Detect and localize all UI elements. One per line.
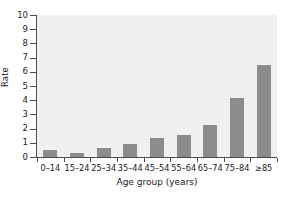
bar bbox=[177, 135, 191, 157]
y-axis-line bbox=[36, 15, 37, 158]
x-tick-mark bbox=[170, 158, 171, 162]
x-axis-line bbox=[36, 157, 277, 158]
x-tick-mark bbox=[224, 158, 225, 162]
x-tick-mark bbox=[117, 158, 118, 162]
bars-container bbox=[37, 15, 277, 157]
bar bbox=[230, 98, 244, 157]
bar bbox=[257, 65, 271, 157]
y-tick-label: 10 bbox=[12, 11, 28, 20]
y-tick-label: 6 bbox=[12, 67, 28, 76]
bar bbox=[97, 148, 111, 157]
y-tick-label: 4 bbox=[12, 96, 28, 105]
x-tick-label: 25–34 bbox=[90, 164, 117, 173]
x-tick-mark bbox=[64, 158, 65, 162]
bar bbox=[43, 150, 57, 157]
x-tick-label: 65–74 bbox=[197, 164, 224, 173]
bar bbox=[123, 144, 137, 157]
x-tick-mark bbox=[277, 158, 278, 162]
bar bbox=[150, 138, 164, 157]
x-tick-mark bbox=[197, 158, 198, 162]
x-tick-mark bbox=[37, 158, 38, 162]
bar-chart-figure: Rate 012345678910 0–1415–2425–3435–4445–… bbox=[0, 0, 290, 200]
x-tick-label: 55–64 bbox=[170, 164, 197, 173]
x-tick-label: 45–54 bbox=[144, 164, 171, 173]
y-tick-label: 8 bbox=[12, 39, 28, 48]
x-tick-label: 35–44 bbox=[117, 164, 144, 173]
y-tick-label: 3 bbox=[12, 110, 28, 119]
x-tick-label: 15–24 bbox=[64, 164, 91, 173]
x-tick-label: 75–84 bbox=[224, 164, 251, 173]
x-tick-label: 0–14 bbox=[37, 164, 64, 173]
x-axis-title: Age group (years) bbox=[37, 177, 277, 187]
y-tick-label: 9 bbox=[12, 25, 28, 34]
x-tick-mark bbox=[250, 158, 251, 162]
x-tick-mark bbox=[90, 158, 91, 162]
y-tick-label: 2 bbox=[12, 124, 28, 133]
bar bbox=[203, 125, 217, 157]
y-tick-label: 0 bbox=[12, 153, 28, 162]
y-tick-label: 1 bbox=[12, 138, 28, 147]
y-axis-title-text: Rate bbox=[0, 56, 10, 98]
y-tick-label: 5 bbox=[12, 82, 28, 91]
x-tick-mark bbox=[144, 158, 145, 162]
y-tick-label: 7 bbox=[12, 53, 28, 62]
x-tick-label: ≥85 bbox=[250, 164, 277, 173]
